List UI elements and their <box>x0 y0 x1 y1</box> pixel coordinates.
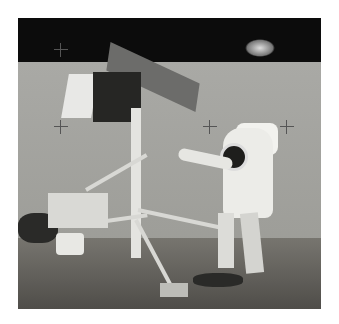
reticle-mark <box>280 120 294 134</box>
lunar-module-distant <box>245 39 275 57</box>
shadow <box>193 273 243 287</box>
lunar-photograph <box>18 18 321 309</box>
astronaut-leg <box>218 213 234 268</box>
reticle-mark <box>203 120 217 134</box>
reticle-mark <box>54 120 68 134</box>
lander-body <box>48 193 108 228</box>
astronaut-body <box>223 128 273 218</box>
lander-tank <box>56 233 84 255</box>
lander-footpad <box>160 283 188 297</box>
lander-mast <box>131 108 141 258</box>
reticle-mark <box>54 43 68 57</box>
